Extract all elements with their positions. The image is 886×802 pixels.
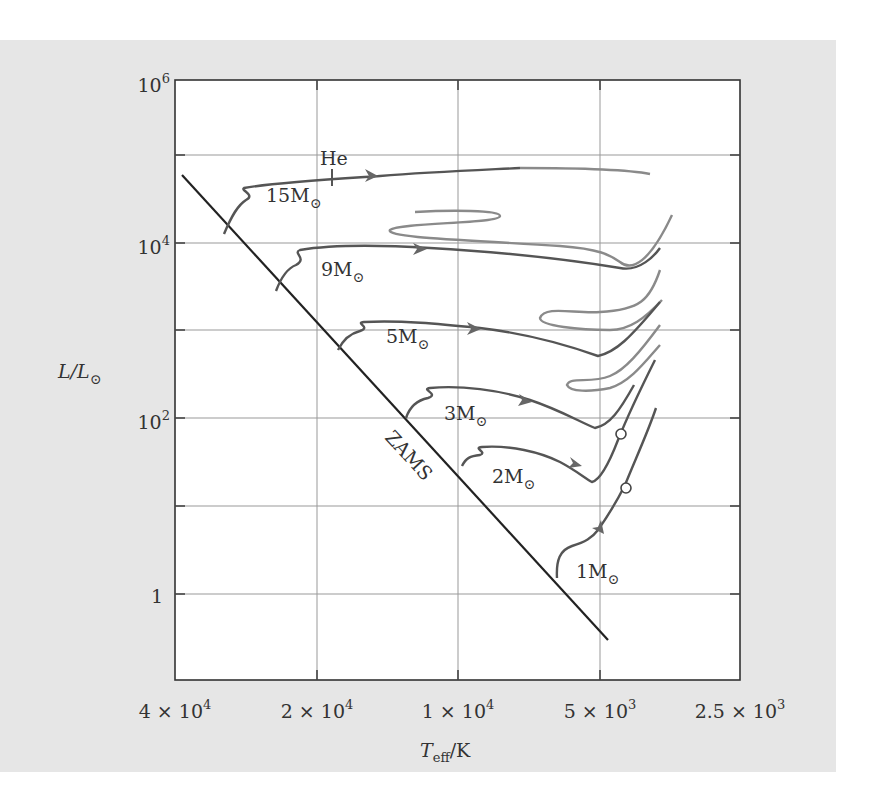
y-tick-1: 1 (151, 585, 163, 607)
marker-circle (616, 429, 626, 439)
y-tick-1e4: 104 (138, 233, 170, 258)
x-tick-4e4: 4 × 104 (139, 697, 212, 722)
x-tick-2p5e3: 2.5 × 103 (695, 697, 786, 722)
x-axis-label: Teff/K (420, 739, 471, 765)
hr-diagram: 106 104 102 1 4 × 104 2 × 104 1 × 104 5 … (0, 0, 886, 802)
marker-circle (621, 483, 631, 493)
x-tick-5e3: 5 × 103 (564, 697, 637, 722)
x-tick-1e4: 1 × 104 (422, 697, 495, 722)
y-tick-1e2: 102 (138, 408, 170, 433)
y-tick-1e6: 106 (138, 71, 170, 96)
he-label: He (320, 147, 348, 169)
y-axis-label: L/L⊙ (57, 360, 101, 387)
x-tick-2e4: 2 × 104 (281, 697, 354, 722)
